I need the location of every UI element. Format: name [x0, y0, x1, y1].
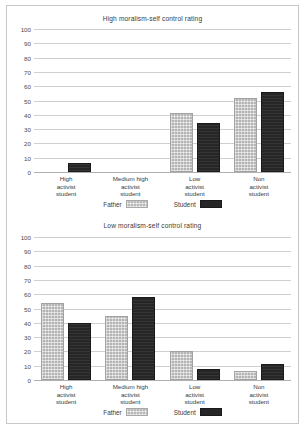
x-axis-label-line: student — [227, 398, 291, 406]
bar-group — [163, 237, 227, 380]
chart-high-moralism: High moralism-self control rating 100908… — [6, 5, 299, 211]
bar-student — [261, 364, 284, 380]
x-axis-label: Highactiviststudent — [34, 175, 98, 198]
x-axis-label-line: student — [227, 190, 291, 198]
chart-low-moralism: Low moralism-self control rating 1009080… — [6, 213, 299, 424]
legend-item-student: Student — [174, 408, 222, 416]
bar-student — [68, 323, 91, 380]
bar-group — [227, 29, 291, 172]
x-axis-label: Highactiviststudent — [34, 383, 98, 406]
chart-legend: Father Student — [34, 200, 291, 208]
bar-student — [68, 163, 91, 172]
y-axis-tick-label: 0 — [28, 169, 31, 176]
x-axis-label-line: student — [34, 190, 98, 198]
x-axis-label-line: activist — [227, 391, 291, 399]
bar-student — [197, 369, 220, 380]
legend-label-father: Father — [103, 409, 121, 416]
y-axis-tick-label: 30 — [24, 126, 31, 133]
bar-father — [105, 316, 128, 380]
bar-father — [234, 98, 257, 172]
gridline: 0 — [34, 172, 291, 173]
legend-swatch-student — [200, 408, 222, 416]
x-axis-label: Nonactiviststudent — [227, 175, 291, 198]
y-axis-tick-label: 90 — [24, 40, 31, 47]
x-axis-label-line: activist — [98, 391, 162, 399]
bar-groups — [34, 237, 291, 380]
x-axis-label-line: student — [98, 398, 162, 406]
x-axis-label-line: activist — [34, 183, 98, 191]
y-axis-tick-label: 40 — [24, 319, 31, 326]
bar-group — [227, 237, 291, 380]
y-axis-tick-label: 80 — [24, 262, 31, 269]
y-axis-tick-label: 30 — [24, 334, 31, 341]
legend-swatch-father — [126, 200, 148, 208]
bar-group — [34, 29, 98, 172]
bar-group — [98, 29, 162, 172]
legend-swatch-father — [126, 408, 148, 416]
bars — [98, 29, 162, 172]
x-axis-label-line: student — [163, 398, 227, 406]
bar-student — [132, 297, 155, 380]
y-axis-tick-label: 10 — [24, 154, 31, 161]
x-axis-label-line: activist — [163, 183, 227, 191]
y-axis-tick-label: 90 — [24, 248, 31, 255]
y-axis-tick-label: 0 — [28, 377, 31, 384]
x-axis-label-line: Non — [227, 383, 291, 391]
bar-father — [234, 371, 257, 380]
y-axis-tick-label: 40 — [24, 111, 31, 118]
plot-area: 1009080706050403020100 — [34, 237, 291, 380]
y-axis-tick-label: 100 — [21, 26, 31, 33]
x-axis-label-line: activist — [227, 183, 291, 191]
y-axis-tick-label: 100 — [21, 234, 31, 241]
x-axis-label-line: Medium high — [98, 383, 162, 391]
bars — [163, 237, 227, 380]
legend-label-father: Father — [103, 201, 121, 208]
bar-student — [197, 123, 220, 172]
x-axis-label: Medium highactiviststudent — [98, 383, 162, 406]
legend-item-father: Father — [103, 200, 147, 208]
x-axis-label-line: student — [34, 398, 98, 406]
bars — [34, 237, 98, 380]
y-axis-tick-label: 60 — [24, 83, 31, 90]
x-axis-label-line: Low — [163, 383, 227, 391]
bars — [227, 29, 291, 172]
x-axis-label-line: High — [34, 383, 98, 391]
plot-area: 1009080706050403020100 — [34, 29, 291, 172]
x-axis-labels: HighactiviststudentMedium highactivistst… — [34, 383, 291, 406]
bar-father — [170, 113, 193, 172]
y-axis-tick-label: 20 — [24, 140, 31, 147]
x-axis-label: Nonactiviststudent — [227, 383, 291, 406]
x-axis-label: Lowactiviststudent — [163, 175, 227, 198]
legend-label-student: Student — [174, 409, 196, 416]
bar-father — [41, 303, 64, 380]
x-axis-label: Lowactiviststudent — [163, 383, 227, 406]
gridline: 0 — [34, 380, 291, 381]
bars — [98, 237, 162, 380]
x-axis-label-line: High — [34, 175, 98, 183]
x-axis-label-line: Medium high — [98, 175, 162, 183]
y-axis-tick-label: 70 — [24, 276, 31, 283]
legend-label-student: Student — [174, 201, 196, 208]
legend-item-father: Father — [103, 408, 147, 416]
chart-legend: Father Student — [34, 408, 291, 416]
y-axis-tick-label: 70 — [24, 68, 31, 75]
x-axis-label-line: student — [163, 190, 227, 198]
x-axis-label-line: Non — [227, 175, 291, 183]
x-axis-label-line: activist — [98, 183, 162, 191]
y-axis-tick-label: 80 — [24, 54, 31, 61]
x-axis-label-line: activist — [163, 391, 227, 399]
bar-groups — [34, 29, 291, 172]
bars — [34, 29, 98, 172]
bar-group — [34, 237, 98, 380]
bar-group — [98, 237, 162, 380]
x-axis-label: Medium highactiviststudent — [98, 175, 162, 198]
bar-student — [261, 92, 284, 172]
y-axis-tick-label: 50 — [24, 97, 31, 104]
chart-title: High moralism-self control rating — [6, 15, 299, 22]
chart-title: Low moralism-self control rating — [6, 222, 299, 229]
y-axis-tick-label: 50 — [24, 305, 31, 312]
x-axis-labels: HighactiviststudentMedium highactivistst… — [34, 175, 291, 198]
bar-group — [163, 29, 227, 172]
y-axis-tick-label: 60 — [24, 291, 31, 298]
x-axis-label-line: Low — [163, 175, 227, 183]
